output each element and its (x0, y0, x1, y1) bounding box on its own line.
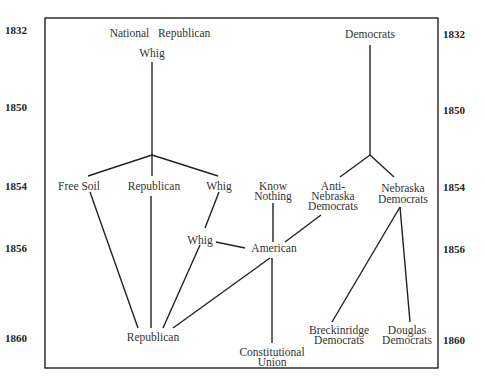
node-breckinridge-line2: Democrats (314, 335, 364, 346)
year-label-right-1856: 1856 (443, 243, 465, 255)
node-national-republican: National Republican (110, 28, 211, 39)
node-know-nothing-line2: Nothing (254, 191, 292, 202)
node-nebraska-democrats-line2: Democrats (378, 194, 428, 205)
node-democrats-1832: Democrats (345, 29, 395, 40)
node-free-soil: Free Soil (58, 181, 100, 192)
year-label-right-1850: 1850 (443, 104, 465, 116)
year-label-left-1832: 1832 (5, 24, 27, 36)
year-label-left-1860: 1860 (5, 332, 27, 344)
node-american: American (251, 243, 296, 254)
year-label-left-1854: 1854 (5, 180, 27, 192)
year-label-left-1850: 1850 (5, 101, 27, 113)
node-whig-1856: Whig (187, 235, 213, 246)
node-constitutional-union-line2: Union (258, 357, 287, 368)
year-label-right-1854: 1854 (443, 181, 465, 193)
node-republican-1860: Republican (127, 332, 179, 343)
node-anti-nebraska-line3: Democrats (308, 201, 358, 212)
node-republican-1854: Republican (128, 181, 180, 192)
node-whig-1854: Whig (206, 181, 232, 192)
node-whig-1832: Whig (139, 48, 165, 59)
node-douglas-line2: Democrats (382, 335, 432, 346)
year-label-left-1856: 1856 (5, 242, 27, 254)
year-label-right-1860: 1860 (443, 334, 465, 346)
year-label-right-1832: 1832 (443, 28, 465, 40)
